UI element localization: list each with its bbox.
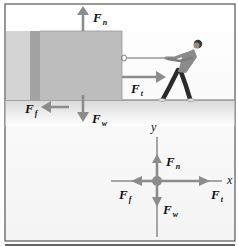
- diagram-graphics: [0, 0, 238, 246]
- floor: [6, 100, 235, 126]
- fbd-label-weight: Fw: [163, 203, 178, 219]
- fbd-label-tension: Ft: [211, 188, 223, 204]
- block: [6, 31, 122, 100]
- scene-label-normal: Fn: [93, 11, 107, 27]
- fbd-object-point: [152, 176, 162, 186]
- scene-label-friction: Ff: [25, 102, 37, 118]
- physics-diagram: Fn Ft Ff Fw y x Fn Ft Ff Fw: [0, 0, 238, 246]
- scene-label-weight: Fw: [92, 112, 107, 128]
- fbd-label-normal: Fn: [166, 155, 180, 171]
- scene-label-tension: Ft: [131, 82, 143, 98]
- fbd-label-friction: Ff: [119, 188, 131, 204]
- x-axis-label: x: [227, 174, 232, 186]
- y-axis-label: y: [151, 121, 156, 133]
